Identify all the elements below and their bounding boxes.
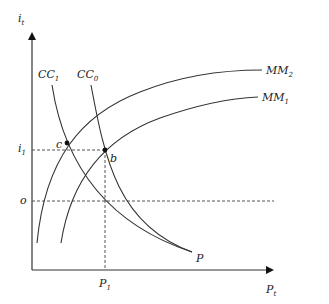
p1-label: P1 [98,277,111,292]
cc0-label: CC0 [77,68,99,83]
point-c [65,141,70,146]
economics-diagram: it Pt CC1 CC0 MM2 MM1 i1 o P1 c b P [0,0,329,304]
o-label: o [20,194,27,207]
point-p-label: P [195,252,204,265]
cc1-label: CC1 [38,68,59,83]
point-b [103,148,108,153]
mm2-curve [37,70,262,243]
cc0-curve [91,85,192,252]
point-c-label: c [56,138,62,151]
mm2-label: MM2 [265,64,294,79]
mm1-label: MM1 [261,91,289,106]
mm1-curve [61,97,258,243]
y-axis-label: it [18,12,25,27]
cc1-curve [52,85,192,252]
point-b-label: b [110,152,117,165]
x-axis-label: Pt [265,283,276,298]
i1-label: i1 [18,142,26,157]
